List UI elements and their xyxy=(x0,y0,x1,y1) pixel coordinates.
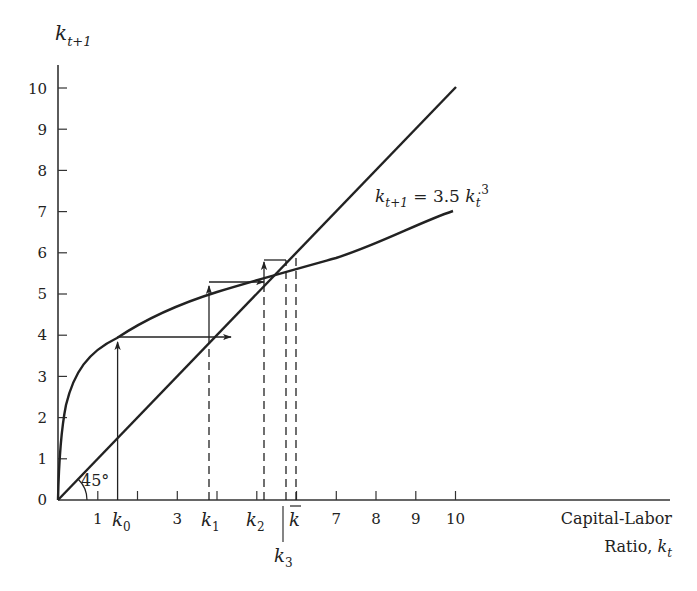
svg-text:k0: k0 xyxy=(112,509,131,534)
y-tick-labels: 0 1 2 3 4 5 6 7 8 9 10 xyxy=(28,80,47,509)
svg-text:3: 3 xyxy=(173,510,183,528)
svg-text:k2: k2 xyxy=(246,509,265,534)
svg-text:8: 8 xyxy=(371,510,381,528)
svg-text:k1: k1 xyxy=(201,509,220,534)
svg-text:0: 0 xyxy=(37,491,47,509)
svg-text:k3: k3 xyxy=(274,545,293,570)
axes xyxy=(58,65,670,500)
x-ticks xyxy=(98,491,456,500)
x-tick-labels: 1 3 7 8 9 10 xyxy=(93,510,465,528)
cobweb xyxy=(118,254,296,500)
svg-text:5: 5 xyxy=(37,285,47,303)
svg-text:10: 10 xyxy=(446,510,465,528)
svg-text:10: 10 xyxy=(28,80,47,98)
svg-text:8: 8 xyxy=(37,162,47,180)
svg-text:3: 3 xyxy=(37,368,47,386)
svg-text:6: 6 xyxy=(37,244,47,262)
svg-text:k: k xyxy=(289,509,300,530)
y-axis-title: kt+1 xyxy=(55,21,92,49)
svg-text:9: 9 xyxy=(37,121,47,139)
svg-text:4: 4 xyxy=(37,326,47,344)
svg-text:7: 7 xyxy=(332,510,342,528)
x-axis-title-line2: Ratio, kt xyxy=(604,537,672,560)
solow-diagram: 0 1 2 3 4 5 6 7 8 9 10 1 3 7 8 9 10 k0 k… xyxy=(0,0,697,591)
x-axis-title-line1: Capital-Labor xyxy=(561,509,673,528)
angle-label: 45° xyxy=(81,471,109,490)
k-labels: k0 k1 k2 k k3 xyxy=(112,506,301,570)
curve-equation-label: kt+1 = 3.5 kt.3 xyxy=(375,183,489,210)
svg-text:1: 1 xyxy=(93,510,103,528)
svg-text:7: 7 xyxy=(37,203,47,221)
svg-text:2: 2 xyxy=(37,409,47,427)
svg-text:9: 9 xyxy=(411,510,421,528)
svg-text:1: 1 xyxy=(37,450,47,468)
